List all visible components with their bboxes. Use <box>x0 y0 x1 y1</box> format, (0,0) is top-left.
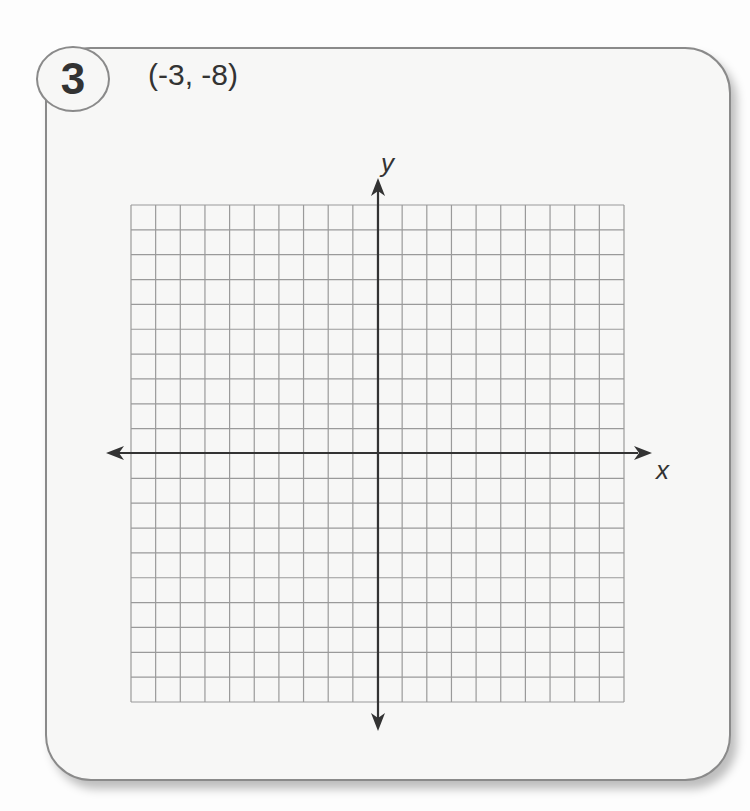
y-axis <box>371 178 385 731</box>
coordinate-plane[interactable] <box>0 0 750 811</box>
y-axis-label: y <box>381 148 394 179</box>
x-axis-label: x <box>656 455 669 486</box>
